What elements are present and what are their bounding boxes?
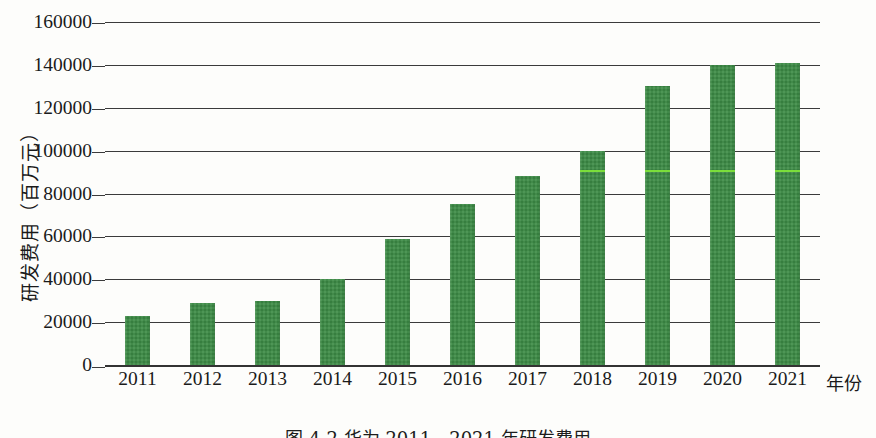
y-axis-tick-labels: 0200004000060000800001000001200001400001… — [0, 22, 92, 365]
gridline-0 — [105, 365, 820, 367]
bar-2017[interactable] — [515, 176, 540, 365]
bar-2013[interactable] — [255, 301, 280, 365]
x-tick-label-2020: 2020 — [703, 368, 742, 390]
x-tick-label-2016: 2016 — [443, 368, 482, 390]
y-tick-label-40000: 40000 — [0, 270, 92, 290]
y-tick-label-160000: 160000 — [0, 12, 92, 32]
y-tick-label-140000: 140000 — [0, 55, 92, 75]
bar-2012[interactable] — [190, 303, 215, 365]
y-tick-label-80000: 80000 — [0, 184, 92, 204]
bar-2021[interactable] — [775, 63, 800, 365]
scan-streak-artifact — [580, 170, 605, 172]
gridline-160000 — [105, 22, 820, 23]
x-tick-label-2017: 2017 — [508, 368, 547, 390]
x-tick-label-2018: 2018 — [573, 368, 612, 390]
y-tick-mark-80000 — [92, 195, 105, 196]
x-tick-label-2019: 2019 — [638, 368, 677, 390]
scan-streak-artifact — [710, 170, 735, 172]
bar-2015[interactable] — [385, 239, 410, 365]
x-tick-label-2014: 2014 — [313, 368, 352, 390]
x-tick-label-2013: 2013 — [248, 368, 287, 390]
y-tick-label-0: 0 — [0, 355, 92, 375]
y-tick-mark-0 — [92, 367, 105, 368]
y-tick-label-120000: 120000 — [0, 98, 92, 118]
figure-caption: 图 4-2 华为 2011—2021 年研发费用 — [0, 424, 876, 438]
y-tick-mark-160000 — [92, 23, 105, 24]
bar-2014[interactable] — [320, 279, 345, 365]
bar-2019[interactable] — [645, 86, 670, 365]
bar-2018[interactable] — [580, 151, 605, 365]
y-tick-mark-20000 — [92, 323, 105, 324]
bar-2020[interactable] — [710, 65, 735, 365]
x-tick-label-2011: 2011 — [118, 368, 156, 390]
x-tick-label-2021: 2021 — [768, 368, 807, 390]
y-tick-mark-120000 — [92, 109, 105, 110]
scan-streak-artifact — [775, 170, 800, 172]
x-axis-title: 年份 — [826, 369, 862, 395]
x-tick-label-2015: 2015 — [378, 368, 417, 390]
bar-2011[interactable] — [125, 316, 150, 365]
y-tick-mark-100000 — [92, 152, 105, 153]
y-tick-label-60000: 60000 — [0, 227, 92, 247]
figure-container: 研发费用（百万元） 020000400006000080000100000120… — [0, 0, 876, 438]
y-tick-label-20000: 20000 — [0, 312, 92, 332]
plot-area — [105, 22, 820, 365]
y-tick-mark-60000 — [92, 237, 105, 238]
y-tick-label-100000: 100000 — [0, 141, 92, 161]
y-tick-mark-140000 — [92, 66, 105, 67]
scan-streak-artifact — [645, 170, 670, 172]
bar-2016[interactable] — [450, 204, 475, 365]
x-tick-label-2012: 2012 — [183, 368, 222, 390]
y-tick-mark-40000 — [92, 280, 105, 281]
x-axis-tick-labels: 2011201220132014201520162017201820192020… — [105, 368, 820, 396]
